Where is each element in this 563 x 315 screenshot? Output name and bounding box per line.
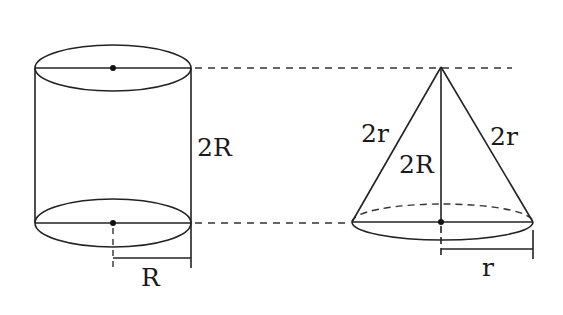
cylinder-radius-label: R — [141, 263, 161, 292]
cylinder-height-label: 2R — [197, 133, 233, 162]
cone-slant-left-label: 2r — [361, 119, 389, 148]
cylinder-bottom-center-dot — [110, 220, 116, 226]
cylinder-top-center-dot — [110, 65, 116, 71]
cone-base-front-arc — [352, 222, 533, 240]
cone-height-label: 2R — [399, 150, 435, 179]
cylinder: R 2R — [35, 45, 233, 292]
cone-slant-right-label: 2r — [490, 122, 518, 151]
cone-radius-label: r — [482, 253, 494, 282]
geometry-diagram: R 2R r 2r 2r 2R — [0, 0, 563, 315]
cone-base-back-arc-dashed — [352, 204, 533, 222]
cone: r 2r 2r 2R — [352, 67, 533, 282]
cone-right-slant — [441, 67, 533, 222]
cone-base-center-dot — [438, 219, 444, 225]
